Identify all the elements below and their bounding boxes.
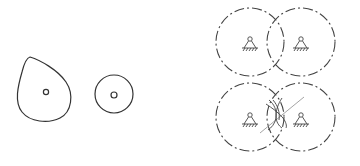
top-gear-pair: [216, 8, 335, 76]
cam-profile: [17, 57, 70, 121]
top-right-pitch-circle: [267, 8, 335, 76]
disk: [95, 75, 133, 113]
disk-shaft-hole: [111, 92, 117, 98]
pivot-support-icon: [242, 37, 258, 51]
cam: [17, 57, 70, 121]
pivot-support-icon: [293, 37, 309, 51]
pivot-support-icon: [293, 113, 309, 127]
pivot-support-icon: [242, 113, 258, 127]
diagram-canvas: [0, 0, 360, 166]
bottom-gear-pair: [216, 83, 335, 151]
cam-shaft-hole: [43, 89, 48, 94]
top-left-pitch-circle: [216, 8, 284, 76]
disk-outline: [95, 75, 133, 113]
